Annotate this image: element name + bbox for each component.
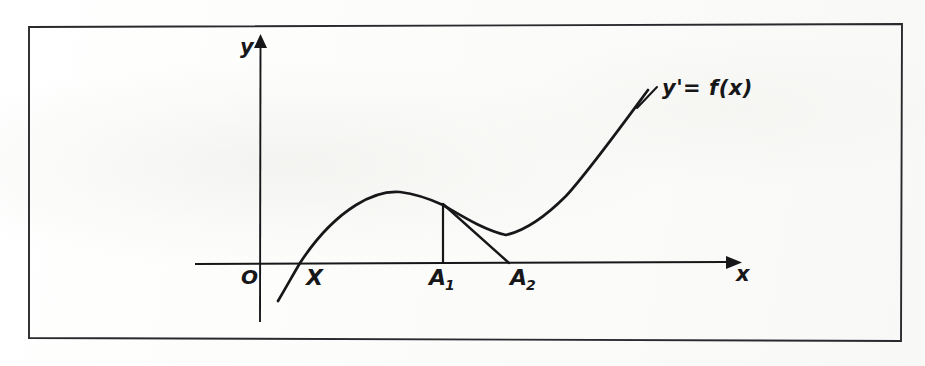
marker-label-x: X [304,265,324,290]
y-axis-line [260,47,261,322]
figure-border [29,24,902,341]
marker-label-a2-base: A [508,265,527,290]
y-axis-arrowhead [254,34,267,48]
x-axis-line [195,262,726,264]
axes-group [195,34,742,322]
origin-label: O [241,265,258,289]
y-axis-label: y [240,35,255,59]
marker-label-a2-subscript: 2 [526,277,536,293]
scanned-figure-page: y x O X A 1 A 2 y'= f(x) [0,0,925,366]
curve-equation-label: y'= f(x) [662,76,753,100]
marker-label-a2: A 2 [508,265,536,293]
marker-label-a1-subscript: 1 [445,277,455,293]
marker-label-a1: A 1 [427,265,455,293]
derivative-curve [278,90,648,301]
math-figure: y x O X A 1 A 2 y'= f(x) [0,0,925,366]
marker-label-a1-base: A [427,265,446,290]
x-axis-label: x [735,262,751,286]
